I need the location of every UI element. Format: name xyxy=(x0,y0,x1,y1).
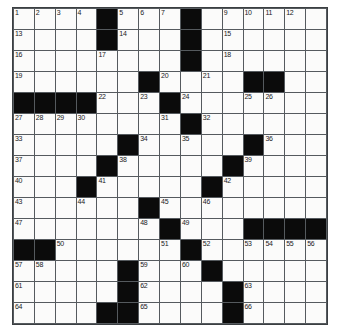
crossword-open-cell[interactable] xyxy=(118,240,138,260)
crossword-open-cell[interactable]: 39 xyxy=(244,156,264,176)
crossword-open-cell[interactable]: 65 xyxy=(139,303,159,323)
crossword-open-cell[interactable] xyxy=(118,51,138,71)
crossword-open-cell[interactable] xyxy=(181,198,201,218)
crossword-open-cell[interactable] xyxy=(97,219,117,239)
crossword-open-cell[interactable]: 5 xyxy=(118,9,138,29)
crossword-open-cell[interactable]: 53 xyxy=(244,240,264,260)
crossword-open-cell[interactable] xyxy=(264,303,284,323)
crossword-open-cell[interactable] xyxy=(160,135,180,155)
crossword-open-cell[interactable] xyxy=(285,177,305,197)
crossword-open-cell[interactable] xyxy=(118,219,138,239)
crossword-open-cell[interactable] xyxy=(97,282,117,302)
crossword-open-cell[interactable]: 34 xyxy=(139,135,159,155)
crossword-open-cell[interactable] xyxy=(306,135,326,155)
crossword-open-cell[interactable] xyxy=(160,282,180,302)
crossword-open-cell[interactable] xyxy=(285,198,305,218)
crossword-open-cell[interactable] xyxy=(202,303,222,323)
crossword-open-cell[interactable]: 43 xyxy=(14,198,34,218)
crossword-open-cell[interactable]: 42 xyxy=(223,177,243,197)
crossword-open-cell[interactable]: 57 xyxy=(14,261,34,281)
crossword-open-cell[interactable] xyxy=(56,156,76,176)
crossword-open-cell[interactable] xyxy=(181,282,201,302)
crossword-open-cell[interactable]: 41 xyxy=(97,177,117,197)
crossword-open-cell[interactable] xyxy=(97,72,117,92)
crossword-open-cell[interactable] xyxy=(56,282,76,302)
crossword-open-cell[interactable] xyxy=(223,114,243,134)
crossword-open-cell[interactable] xyxy=(35,51,55,71)
crossword-open-cell[interactable]: 20 xyxy=(160,72,180,92)
crossword-open-cell[interactable]: 50 xyxy=(56,240,76,260)
crossword-open-cell[interactable]: 38 xyxy=(118,156,138,176)
crossword-open-cell[interactable]: 10 xyxy=(244,9,264,29)
crossword-open-cell[interactable] xyxy=(56,219,76,239)
crossword-open-cell[interactable]: 35 xyxy=(181,135,201,155)
crossword-open-cell[interactable] xyxy=(285,135,305,155)
crossword-open-cell[interactable] xyxy=(223,240,243,260)
crossword-open-cell[interactable] xyxy=(244,51,264,71)
crossword-open-cell[interactable]: 40 xyxy=(14,177,34,197)
crossword-open-cell[interactable] xyxy=(264,282,284,302)
crossword-open-cell[interactable] xyxy=(77,240,97,260)
crossword-open-cell[interactable] xyxy=(77,261,97,281)
crossword-open-cell[interactable]: 27 xyxy=(14,114,34,134)
crossword-open-cell[interactable]: 59 xyxy=(139,261,159,281)
crossword-open-cell[interactable] xyxy=(264,177,284,197)
crossword-open-cell[interactable]: 22 xyxy=(97,93,117,113)
crossword-open-cell[interactable] xyxy=(285,93,305,113)
crossword-open-cell[interactable] xyxy=(56,30,76,50)
crossword-open-cell[interactable]: 58 xyxy=(35,261,55,281)
crossword-open-cell[interactable] xyxy=(285,156,305,176)
crossword-open-cell[interactable]: 11 xyxy=(264,9,284,29)
crossword-open-cell[interactable]: 31 xyxy=(160,114,180,134)
crossword-open-cell[interactable] xyxy=(223,72,243,92)
crossword-open-cell[interactable]: 44 xyxy=(77,198,97,218)
crossword-open-cell[interactable] xyxy=(264,114,284,134)
crossword-open-cell[interactable] xyxy=(35,135,55,155)
crossword-open-cell[interactable]: 19 xyxy=(14,72,34,92)
crossword-open-cell[interactable] xyxy=(77,51,97,71)
crossword-open-cell[interactable]: 51 xyxy=(160,240,180,260)
crossword-open-cell[interactable] xyxy=(56,261,76,281)
crossword-open-cell[interactable] xyxy=(160,156,180,176)
crossword-open-cell[interactable] xyxy=(97,261,117,281)
crossword-open-cell[interactable] xyxy=(56,72,76,92)
crossword-open-cell[interactable] xyxy=(181,177,201,197)
crossword-open-cell[interactable] xyxy=(223,198,243,218)
crossword-open-cell[interactable] xyxy=(160,303,180,323)
crossword-open-cell[interactable] xyxy=(202,9,222,29)
crossword-open-cell[interactable] xyxy=(56,303,76,323)
crossword-open-cell[interactable] xyxy=(35,177,55,197)
crossword-open-cell[interactable] xyxy=(306,93,326,113)
crossword-open-cell[interactable] xyxy=(118,177,138,197)
crossword-open-cell[interactable] xyxy=(285,30,305,50)
crossword-open-cell[interactable] xyxy=(223,261,243,281)
crossword-open-cell[interactable]: 48 xyxy=(139,219,159,239)
crossword-open-cell[interactable] xyxy=(118,198,138,218)
crossword-open-cell[interactable] xyxy=(202,219,222,239)
crossword-open-cell[interactable]: 1 xyxy=(14,9,34,29)
crossword-open-cell[interactable] xyxy=(202,93,222,113)
crossword-open-cell[interactable] xyxy=(35,72,55,92)
crossword-open-cell[interactable] xyxy=(306,72,326,92)
crossword-open-cell[interactable] xyxy=(56,198,76,218)
crossword-open-cell[interactable] xyxy=(139,30,159,50)
crossword-open-cell[interactable]: 49 xyxy=(181,219,201,239)
crossword-open-cell[interactable] xyxy=(202,282,222,302)
crossword-open-cell[interactable] xyxy=(223,219,243,239)
crossword-open-cell[interactable] xyxy=(97,240,117,260)
crossword-open-cell[interactable] xyxy=(264,156,284,176)
crossword-open-cell[interactable]: 61 xyxy=(14,282,34,302)
crossword-open-cell[interactable]: 16 xyxy=(14,51,34,71)
crossword-open-cell[interactable]: 13 xyxy=(14,30,34,50)
crossword-open-cell[interactable]: 7 xyxy=(160,9,180,29)
crossword-open-cell[interactable] xyxy=(35,156,55,176)
crossword-open-cell[interactable] xyxy=(139,114,159,134)
crossword-open-cell[interactable] xyxy=(306,303,326,323)
crossword-open-cell[interactable]: 56 xyxy=(306,240,326,260)
crossword-open-cell[interactable] xyxy=(77,30,97,50)
crossword-open-cell[interactable]: 2 xyxy=(35,9,55,29)
crossword-open-cell[interactable]: 6 xyxy=(139,9,159,29)
crossword-open-cell[interactable] xyxy=(56,135,76,155)
crossword-open-cell[interactable] xyxy=(160,177,180,197)
crossword-open-cell[interactable] xyxy=(77,282,97,302)
